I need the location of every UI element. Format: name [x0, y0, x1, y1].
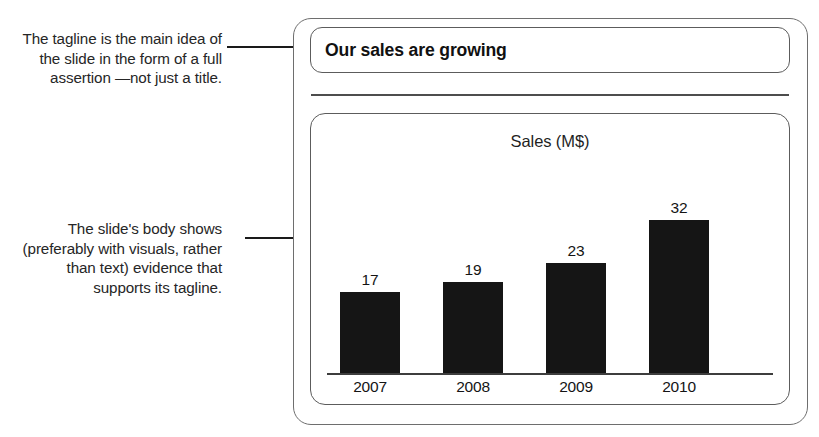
x-axis-tick-label: 2009	[546, 378, 606, 396]
bar-rect[interactable]	[340, 292, 400, 373]
bar-group[interactable]: 17	[340, 271, 400, 373]
bar-chart-plot: 172007192008232009322010	[311, 114, 789, 404]
bar-rect[interactable]	[649, 220, 709, 373]
annotation-tagline: The tagline is the main idea of the slid…	[10, 29, 222, 88]
slide-title-text: Our sales are growing	[311, 40, 507, 61]
bar-value-label: 32	[671, 199, 688, 217]
bar-value-label: 17	[362, 271, 379, 289]
bar-value-label: 19	[465, 261, 482, 279]
bar-group[interactable]: 19	[443, 261, 503, 373]
x-axis-tick-label: 2008	[443, 378, 503, 396]
x-axis-tick-label: 2007	[340, 378, 400, 396]
slide-body-box[interactable]: Sales (M$) 172007192008232009322010	[310, 113, 790, 405]
bar-rect[interactable]	[546, 263, 606, 373]
slide-separator-rule	[311, 94, 789, 96]
bar-rect[interactable]	[443, 282, 503, 373]
slide-title-box[interactable]: Our sales are growing	[310, 27, 790, 73]
bar-group[interactable]: 23	[546, 242, 606, 373]
bar-value-label: 23	[568, 242, 585, 260]
annotation-body: The slide's body shows (preferably with …	[10, 219, 222, 297]
chart-baseline-axis	[327, 373, 773, 375]
bar-group[interactable]: 32	[649, 199, 709, 373]
x-axis-tick-label: 2010	[649, 378, 709, 396]
